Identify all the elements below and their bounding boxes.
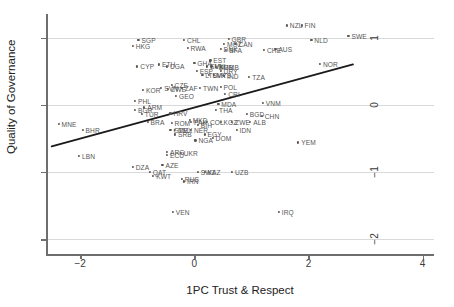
x-axis-line [46,254,434,256]
data-point-label: HKG [136,42,151,49]
scatter-plot-figure: Quality of Governance 1PC Trust & Respec… [0,0,454,307]
data-point-label: TWN [203,84,218,91]
data-point-label: ZAF [185,84,198,91]
data-point-label: CHL [187,36,201,43]
data-point-label: UZB [235,168,249,175]
y-axis-title-container: Quality of Governance [0,0,22,307]
data-point-label: SWE [351,32,366,39]
plot-area: 10−1−2 −2024 NZLFINSWENLDGBRCHLSGPMOZCAN… [46,14,434,256]
data-point-label: TUR [145,111,159,118]
data-point-label: YEM [301,139,316,146]
data-point-label: BFA [229,46,242,53]
data-point-label: RWA [191,44,206,51]
data-point-label: ECU [170,152,184,159]
data-point-label: ALB [253,119,266,126]
x-axis-title: 1PC Trust & Respect [46,284,434,296]
data-point-label: VEN [176,208,190,215]
data-point-label: IRN [187,178,199,185]
data-point-label: DZA [136,163,150,170]
data-point-label: AZE [165,162,178,169]
data-point-label: GEO [179,93,194,100]
data-point-label: IND [227,72,239,79]
data-point-label: NER [194,126,208,133]
data-point-label: ZWE [171,85,186,92]
data-point-label: TZA [252,73,265,80]
data-point-label: FIN [305,22,316,29]
data-point-label: SRB [178,131,192,138]
data-point-label: KAZ [208,168,221,175]
x-tick-label: 0 [192,258,198,269]
data-point-label: NLD [314,37,328,44]
data-point-label: CYP [140,63,154,70]
data-point-label: HRV [173,110,187,117]
data-point-label: AUS [278,45,292,52]
data-point-label: THA [219,107,233,114]
data-point-label: BHR [86,127,100,134]
x-tick-label: 2 [306,258,312,269]
data-point-label: CRI [228,90,240,97]
x-tick-label: −2 [75,258,86,269]
data-point-label: UGA [170,63,185,70]
data-point-label: DOM [216,134,232,141]
data-point-label: IDN [240,127,252,134]
data-point-label: VNM [266,99,281,106]
data-point-label: NOR [323,60,338,67]
data-point-label: POL [224,83,238,90]
data-point-label: MNE [62,121,77,128]
data-point-label: NGA [198,137,213,144]
data-point-label: IRQ [282,208,294,215]
x-tick-label: 4 [420,258,426,269]
data-point-label: KWT [156,173,171,180]
data-point-label: BRA [151,118,165,125]
y-axis-title: Quality of Governance [5,39,17,153]
data-point-label: CHN [265,113,280,120]
data-point-label: KOR [146,86,161,93]
y-axis-line [46,14,48,256]
data-point-label: LBN [82,152,95,159]
data-point-label: UKR [184,150,198,157]
data-point-label: ZWE [235,119,250,126]
